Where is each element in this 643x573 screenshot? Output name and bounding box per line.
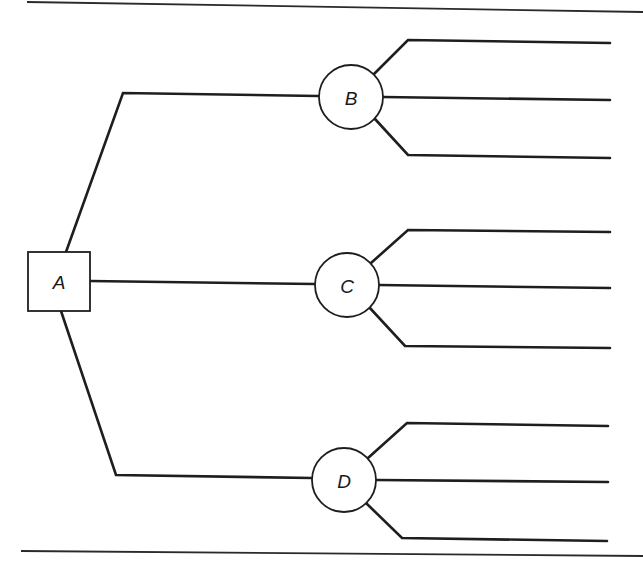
edge-d-outcome-3: [366, 503, 607, 541]
edge-d-outcome-2: [376, 480, 608, 482]
edge-c-outcome-1: [371, 230, 610, 263]
decision-tree-diagram: A B C D: [0, 0, 643, 573]
edge-a-to-d: [61, 311, 312, 478]
bottom-rule: [21, 551, 643, 556]
edge-c-outcome-2: [379, 285, 610, 288]
node-label-d: D: [337, 471, 351, 492]
node-label-a: A: [52, 272, 66, 293]
chance-node-c: C: [315, 253, 379, 317]
decision-node-a: A: [28, 252, 90, 311]
node-label-b: B: [345, 88, 358, 109]
edge-d-outcome-1: [368, 423, 608, 458]
top-rule: [27, 2, 643, 12]
edge-a-to-b: [66, 93, 318, 252]
edge-b-outcome-2: [383, 97, 610, 100]
edge-a-to-c: [90, 281, 315, 284]
edge-c-outcome-3: [369, 307, 610, 348]
chance-node-b: B: [319, 65, 383, 129]
edge-b-outcome-1: [374, 40, 610, 74]
node-label-c: C: [340, 276, 354, 297]
chance-node-d: D: [312, 448, 376, 512]
edge-b-outcome-3: [375, 119, 610, 158]
